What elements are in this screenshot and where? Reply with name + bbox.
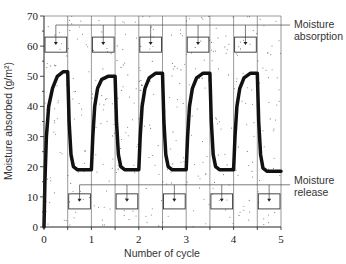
y-axis-title: Moisture absorbed (g/m²) [2,62,14,180]
absorption-label-line1: Moisture [294,18,334,30]
y-tick-label: 70 [27,10,39,22]
y-tick-label: 30 [27,131,39,143]
release-box [258,194,280,209]
release-label-line1: Moisture [294,174,334,186]
release-box [164,194,186,209]
y-tick-label: 40 [27,100,39,112]
x-tick-label: 1 [89,233,95,245]
absorption-box [235,37,257,52]
x-tick-label: 3 [183,233,189,245]
x-tick-label: 0 [41,233,47,245]
y-tick-label: 50 [27,70,39,82]
y-tick-label: 10 [27,191,39,203]
y-axis-ticks: 010203040506070 [27,10,44,233]
y-tick-label: 60 [27,40,39,52]
absorption-box [140,37,162,52]
release-box [116,194,138,209]
x-tick-label: 5 [278,233,284,245]
absorption-box [187,37,209,52]
release-box [69,194,91,209]
absorption-box [92,37,114,52]
x-axis-ticks: 012345 [41,227,284,245]
x-tick-label: 4 [231,233,237,245]
release-box [211,194,233,209]
y-tick-label: 0 [33,221,39,233]
moisture-cycle-chart: 010203040506070 012345 Number of cycle M… [0,0,346,264]
y-tick-label: 20 [27,161,39,173]
absorption-label-line2: absorption [294,30,343,42]
absorption-box [45,37,67,52]
release-label-line2: release [294,186,329,198]
x-tick-label: 2 [136,233,142,245]
x-axis-title: Number of cycle [124,247,200,259]
